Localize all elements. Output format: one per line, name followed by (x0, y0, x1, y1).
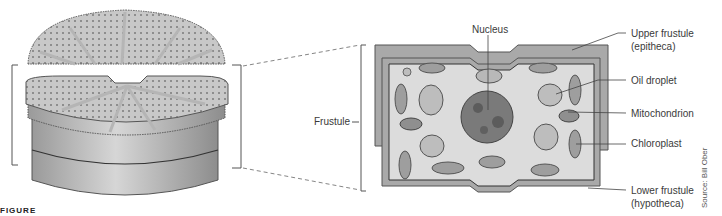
diatom-diagram: Frustule Nucleus Upper frustule (epithec… (0, 0, 722, 216)
epitheca-valve-illustration (28, 10, 225, 64)
diagram-graphics (0, 0, 722, 216)
label-chloroplast: Chloroplast (631, 138, 682, 150)
diatom-body-illustration (26, 76, 228, 195)
cell-cross-section (375, 45, 608, 192)
source-credit: Source: Bill Ober (700, 148, 709, 208)
label-oil-droplet: Oil droplet (631, 75, 677, 87)
figure-caption-fragment: FIGURE (0, 206, 36, 215)
label-frustule: Frustule (314, 116, 350, 128)
label-lower-frustule: Lower frustule (631, 185, 694, 197)
label-mitochondrion: Mitochondrion (631, 108, 694, 120)
label-upper-frustule: Upper frustule (631, 28, 694, 40)
label-nucleus: Nucleus (472, 24, 508, 36)
frustule-bracket (352, 45, 366, 191)
label-hypotheca: (hypotheca) (631, 198, 684, 210)
label-epitheca: (epitheca) (631, 41, 675, 53)
